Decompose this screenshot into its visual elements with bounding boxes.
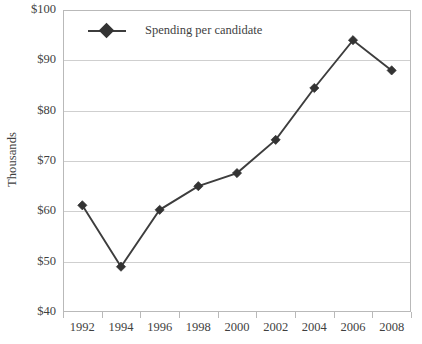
gridline xyxy=(64,211,410,212)
x-axis-tick xyxy=(334,312,335,318)
legend-marker-diamond-icon xyxy=(88,24,126,38)
gridline xyxy=(64,111,410,112)
x-axis-tick-label: 2008 xyxy=(362,320,422,335)
gridline xyxy=(64,60,410,61)
line-chart: Thousands $100$90$80$70$60$50$40 1992199… xyxy=(0,0,422,344)
y-axis-tick-label: $90 xyxy=(2,52,56,67)
x-axis-tick xyxy=(218,312,219,318)
y-axis-tick-label: $80 xyxy=(2,103,56,118)
gridline xyxy=(64,161,410,162)
plot-area xyxy=(63,10,411,312)
gridline xyxy=(64,262,410,263)
x-axis-tick xyxy=(295,312,296,318)
x-axis-tick xyxy=(102,312,103,318)
x-axis-tick xyxy=(372,312,373,318)
chart-legend: Spending per candidate xyxy=(88,23,262,38)
x-axis-tick xyxy=(411,312,412,318)
x-axis-tick xyxy=(256,312,257,318)
y-axis-tick-label: $40 xyxy=(2,304,56,319)
y-axis-tick-label: $60 xyxy=(2,203,56,218)
y-axis-tick-label: $50 xyxy=(2,254,56,269)
x-axis-tick xyxy=(140,312,141,318)
y-axis-tick-label: $100 xyxy=(2,2,56,17)
x-axis-tick xyxy=(63,312,64,318)
legend-label: Spending per candidate xyxy=(145,23,262,38)
y-axis-tick-label: $70 xyxy=(2,153,56,168)
x-axis-tick xyxy=(179,312,180,318)
